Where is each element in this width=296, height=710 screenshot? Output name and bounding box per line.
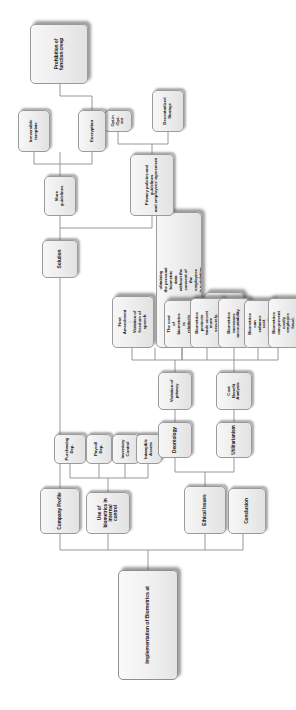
- node-more-guidelines-label: More guidelines: [55, 179, 65, 213]
- node-intangible-assets-label: Intangible Assets: [144, 437, 154, 461]
- node-prohibition-function-creep[interactable]: Prohibition of function creep: [30, 24, 88, 84]
- node-decentralized-storage[interactable]: Decentralized Storage: [152, 90, 184, 132]
- node-violation-of-privacy[interactable]: Violation of privacy: [158, 372, 192, 410]
- node-solution[interactable]: Solution: [42, 240, 78, 278]
- node-conclusion[interactable]: Conclusion: [228, 488, 266, 534]
- node-payroll-dep-label: Payroll Dep.: [94, 437, 104, 461]
- node-purchasing-dep[interactable]: Purchasing Dep.: [54, 434, 86, 464]
- node-irreversible-template-label: Irreversible template: [29, 113, 39, 149]
- node-opt-in-opt-out[interactable]: Opt-in /Opt- out: [104, 110, 132, 132]
- node-root[interactable]: Implementation of Biometrics at: [118, 570, 178, 680]
- node-first-amendment[interactable]: First Amendment : Violation of freedom o…: [112, 296, 154, 348]
- node-ethical-issues-label: Ethical Issues: [202, 489, 207, 531]
- node-purchasing-dep-label: Purchasing Dep.: [65, 437, 75, 461]
- node-root-label: Implementation of Biometrics at: [145, 573, 151, 677]
- node-privacy-policies[interactable]: Privacy policies and guidelines and empl…: [130, 154, 174, 216]
- diagram-canvas: Implementation of Biometrics at Company …: [0, 0, 296, 710]
- node-violation-of-privacy-label: Violation of privacy: [170, 375, 180, 407]
- node-payroll-dep[interactable]: Payroll Dep.: [86, 434, 112, 464]
- node-prevent-fraud-label: Biometrics can prevent costly employee f…: [272, 301, 296, 345]
- node-encryption[interactable]: Encryption: [78, 110, 106, 152]
- diagram-rotation-wrapper: Implementation of Biometrics at Company …: [0, 0, 296, 710]
- node-inventory-control-label: Inventory Control: [121, 437, 131, 461]
- node-accountability-label: Biometrics increases accountability.: [227, 301, 242, 345]
- node-solution-label: Solution: [57, 243, 62, 275]
- node-ethical-issues[interactable]: Ethical Issues: [184, 486, 226, 534]
- node-company-profile[interactable]: Company Profile: [40, 488, 80, 534]
- node-trade-secret-label: Biometrics protects trade secret more se…: [195, 301, 220, 345]
- node-decentralized-storage-label: Decentralized Storage: [163, 93, 173, 129]
- node-irreversible-template[interactable]: Irreversible template: [18, 110, 50, 152]
- node-use-of-biometrics[interactable]: Use of biometrics in internal control: [86, 492, 130, 534]
- node-utilitarianism-label: Utilitarianism: [231, 425, 236, 455]
- node-first-amendment-label: First Amendment : Violation of freedom o…: [118, 299, 148, 345]
- node-prevent-fraud[interactable]: Biometrics can prevent costly employee f…: [268, 298, 296, 348]
- node-opt-in-opt-out-label: Opt-in /Opt- out: [111, 113, 124, 129]
- node-prohibition-function-creep-label: Prohibition of function creep: [54, 27, 65, 81]
- node-encryption-label: Encryption: [90, 113, 95, 149]
- node-company-profile-label: Company Profile: [57, 491, 62, 531]
- node-deontology[interactable]: Deontology: [158, 422, 192, 458]
- node-deontology-label: Deontology: [172, 425, 177, 455]
- node-cost-benefit-analysis-label: Cost Benefit Analysis: [227, 375, 242, 407]
- node-more-guidelines[interactable]: More guidelines: [44, 176, 76, 216]
- node-use-of-biometrics-label: Use of biometrics in internal control: [97, 495, 119, 531]
- node-conclusion-label: Conclusion: [244, 491, 249, 531]
- node-utilitarianism[interactable]: Utilitarianism: [216, 422, 252, 458]
- node-cost-benefit-analysis[interactable]: Cost Benefit Analysis: [216, 372, 252, 410]
- node-privacy-policies-label: Privacy policies and guidelines and empl…: [145, 157, 160, 213]
